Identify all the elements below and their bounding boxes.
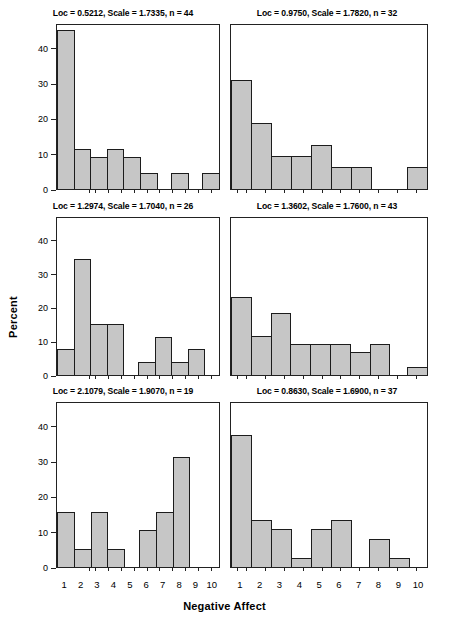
x-axis-tick-label: 10 [408,579,428,593]
bar [370,344,391,375]
panel-top-right: Loc = 0.9750, Scale = 1.7820, n = 32 [224,8,430,200]
y-axis-tick-label: 30 [38,270,56,280]
panel-title: Loc = 1.3602, Scale = 1.7600, n = 43 [224,201,430,211]
x-axis-tick [115,189,128,201]
bar [140,173,158,189]
bar-series [57,218,219,375]
bar [331,520,352,567]
bar [57,512,75,567]
x-axis-tick [387,567,406,579]
x-axis-ticks [237,189,425,201]
panel-row-1: Loc = 0.5212, Scale = 1.7335, n = 44 010… [24,8,449,200]
x-axis-tick [89,567,102,579]
x-axis-tick-labels: 12345678910 12345678910 [24,579,449,593]
plot-area [56,402,220,568]
bar [407,167,428,189]
x-axis-tick [153,567,166,579]
bar [330,344,351,375]
bar-series [231,218,427,375]
bar [271,156,292,189]
x-axis-tick-label: 5 [309,579,329,593]
bar [350,352,371,375]
bar [251,123,272,189]
y-axis-tick-label: 40 [38,236,56,246]
bar [310,344,331,375]
bar-series [231,403,427,567]
x-axis-tick [191,189,204,201]
bar [107,149,125,189]
y-axis-tick-label: 0 [43,563,56,573]
x-axis-tick [204,189,217,201]
x-axis-tick-label: 4 [105,579,121,593]
y-axis-tick-label: 40 [38,44,56,54]
x-axis-tick-label: 6 [329,579,349,593]
y-axis-tick-label: 10 [38,528,56,538]
bar [188,349,206,375]
y-axis-ticks: 010203040 [24,402,56,568]
bar [251,336,272,375]
panel-row-2: Loc = 1.2974, Scale = 1.7040, n = 26 010… [24,201,449,386]
bar [271,313,292,375]
panel-bottom-left: Loc = 2.1079, Scale = 1.9070, n = 19 010… [24,386,222,578]
histogram-figure: Percent Loc = 0.5212, Scale = 1.7335, n … [0,0,449,633]
bar [291,156,312,189]
y-axis-tick-label: 0 [43,371,56,381]
x-axis-tick [102,567,115,579]
bar [155,337,173,375]
x-axis-tick [275,567,294,579]
panel-row-3: Loc = 2.1079, Scale = 1.9070, n = 19 010… [24,386,449,578]
bar [290,344,311,375]
bar [291,558,312,567]
bar [123,157,141,189]
x-axis-tick [89,189,102,201]
x-axis-tick-label: 6 [138,579,154,593]
y-axis-ticks: 010203040 [24,217,56,376]
bar [251,520,272,567]
x-axis-tick-label: 9 [388,579,408,593]
y-axis-tick-label: 20 [38,492,56,502]
bar [91,512,109,567]
bar [74,149,92,189]
bar [407,367,428,375]
x-axis-tick [387,189,406,201]
bar [74,259,92,375]
panel-bottom-right: Loc = 0.8630, Scale = 1.6900, n = 37 [224,386,430,578]
x-axis-label-text: Negative Affect [183,600,266,612]
bar [231,435,252,567]
x-axis-tick [293,567,312,579]
bar-series [57,25,219,189]
x-axis-tick [191,567,204,579]
bar [57,349,75,375]
bar [311,145,332,189]
bar [74,549,92,567]
x-axis-tick-label: 1 [56,579,72,593]
x-axis-tick-label: 2 [72,579,88,593]
y-axis-label-text: Percent [7,296,19,338]
plot-area [56,217,220,376]
panel-middle-right: Loc = 1.3602, Scale = 1.7600, n = 43 [224,201,430,386]
x-axis-tick [350,189,369,201]
panel-top-left: Loc = 0.5212, Scale = 1.7335, n = 44 010… [24,8,222,200]
x-axis-tick-label: 9 [187,579,203,593]
bar [202,173,220,189]
bar [231,80,252,189]
x-axis-tick-label: 8 [369,579,389,593]
bar-series [231,25,427,189]
x-axis-tick-label: 7 [154,579,170,593]
x-axis-tick [127,567,140,579]
y-axis-tick-label: 30 [38,79,56,89]
x-axis-tick [153,189,166,201]
x-axis-tick [115,567,128,579]
x-axis-tick [369,567,388,579]
bar [57,30,75,189]
panel-middle-left: Loc = 1.2974, Scale = 1.7040, n = 26 010… [24,201,222,386]
y-axis-tick-label: 0 [43,185,56,195]
bar [389,558,410,567]
x-axis-tick [331,567,350,579]
panel-title: Loc = 0.9750, Scale = 1.7820, n = 32 [224,8,430,18]
x-axis-tick-label: 1 [230,579,250,593]
x-axis-tick [256,567,275,579]
panel-title: Loc = 2.1079, Scale = 1.9070, n = 19 [24,386,222,396]
bar [107,549,125,567]
bar [138,362,156,375]
